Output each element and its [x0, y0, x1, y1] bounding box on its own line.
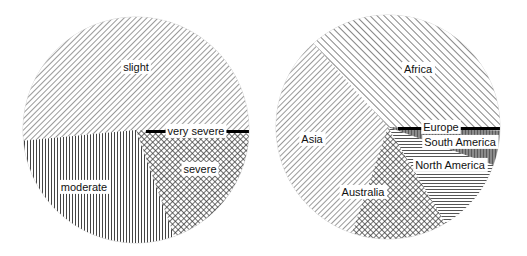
slice-label-africa: Africa — [404, 63, 433, 75]
slice-label-slight: slight — [123, 61, 149, 73]
pie-chart-severity: slightmoderateseverevery severe — [23, 17, 249, 243]
slice-label-very-severe: very severe — [168, 125, 225, 137]
slice-label-north-america: North America — [415, 159, 486, 171]
slice-label-moderate: moderate — [61, 181, 107, 193]
slice-label-asia: Asia — [301, 133, 323, 145]
pie-chart-continents: AfricaAsiaAustraliaNorth AmericaSouth Am… — [276, 15, 500, 239]
pie-charts: slightmoderateseverevery severe AfricaAs… — [0, 0, 527, 256]
slice-label-australia: Australia — [342, 186, 386, 198]
slice-label-south-america: South America — [424, 136, 496, 148]
slice-label-severe: severe — [183, 163, 216, 175]
pie-slice-slight — [23, 17, 249, 141]
slice-label-europe: Europe — [423, 121, 458, 133]
